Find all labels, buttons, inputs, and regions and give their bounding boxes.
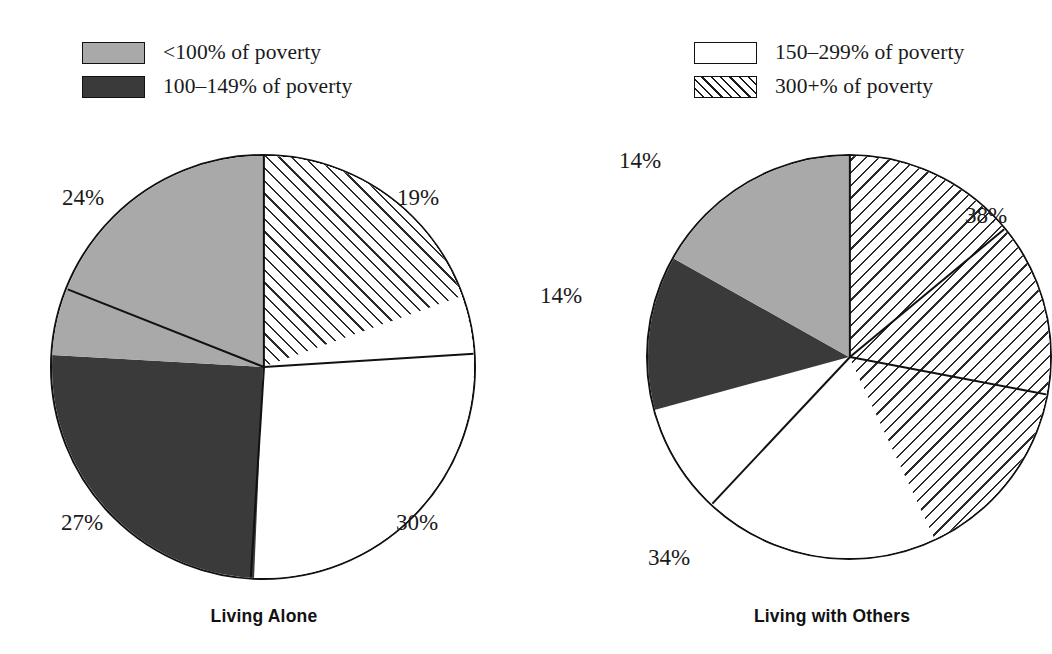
pct-label-right-300-plus: 38%: [965, 204, 1007, 227]
pct-label-left-under-100: 24%: [62, 186, 104, 209]
pie-divider-0: [849, 156, 851, 357]
legend-item-150-299: 150–299% of poverty: [694, 36, 964, 70]
pct-label-right-100-149: 14%: [540, 284, 582, 307]
right-legend: 150–299% of poverty 300+% of poverty: [694, 36, 964, 104]
legend-swatch-gray-light: [82, 42, 145, 64]
caption-living-with-others: Living with Others: [622, 606, 1042, 627]
pct-label-right-150-299: 34%: [648, 546, 690, 569]
pct-label-left-100-149: 27%: [61, 511, 103, 534]
pie-divider-0: [263, 156, 265, 367]
legend-label-150-299: 150–299% of poverty: [775, 42, 964, 64]
legend-label-300-plus: 300+% of poverty: [775, 76, 933, 98]
pie-chart-living-alone: 19% 30% 27% 24% Living Alone: [44, 148, 484, 628]
legend-label-under-100: <100% of poverty: [163, 42, 321, 64]
legend-item-under-100: <100% of poverty: [82, 36, 352, 70]
legend-swatch-hatched: [694, 76, 757, 98]
caption-living-alone: Living Alone: [44, 606, 484, 627]
legend-item-300-plus: 300+% of poverty: [694, 70, 964, 104]
left-legend: <100% of poverty 100–149% of poverty: [82, 36, 352, 104]
legend-label-100-149: 100–149% of poverty: [163, 76, 352, 98]
pct-label-left-150-299: 30%: [396, 511, 438, 534]
pie-chart-living-with-others: 38% 34% 14% 14% Living with Others: [622, 148, 1042, 628]
pct-label-left-300-plus: 19%: [397, 186, 439, 209]
legend-item-100-149: 100–149% of poverty: [82, 70, 352, 104]
pct-label-right-under-100: 14%: [619, 149, 661, 172]
legend-swatch-gray-dark: [82, 76, 145, 98]
legend-swatch-white: [694, 42, 757, 64]
